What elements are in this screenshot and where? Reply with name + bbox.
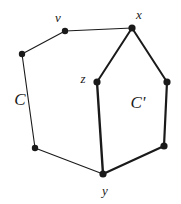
graph-vertex-v [62, 28, 68, 34]
graph-canvas [0, 0, 181, 204]
graph-edge-u-y [103, 146, 164, 174]
graph-vertex-z [93, 78, 100, 85]
graph-edge-z-y [97, 82, 103, 174]
graph-edge-b-y [35, 148, 103, 174]
graph-vertex-a [19, 51, 25, 57]
vertex-label-y: y [102, 184, 108, 197]
cycle-label-C: C [14, 91, 25, 108]
graph-figure: vxzyCC' [0, 0, 181, 204]
graph-vertex-x [128, 24, 135, 31]
graph-edge-v-x [65, 28, 132, 31]
graph-vertex-b [32, 145, 38, 151]
graph-edge-a-v [22, 31, 65, 54]
graph-vertex-u [160, 142, 167, 149]
cycle-label-C-prime: C' [131, 94, 146, 111]
graph-vertex-w [163, 78, 170, 85]
vertex-label-z: z [80, 72, 85, 85]
vertex-label-v: v [55, 11, 61, 24]
vertex-label-x: x [136, 8, 142, 21]
graph-edge-x-w [132, 28, 167, 82]
graph-edge-w-u [164, 82, 167, 146]
graph-edge-x-z [97, 28, 132, 82]
graph-vertex-y [99, 170, 106, 177]
